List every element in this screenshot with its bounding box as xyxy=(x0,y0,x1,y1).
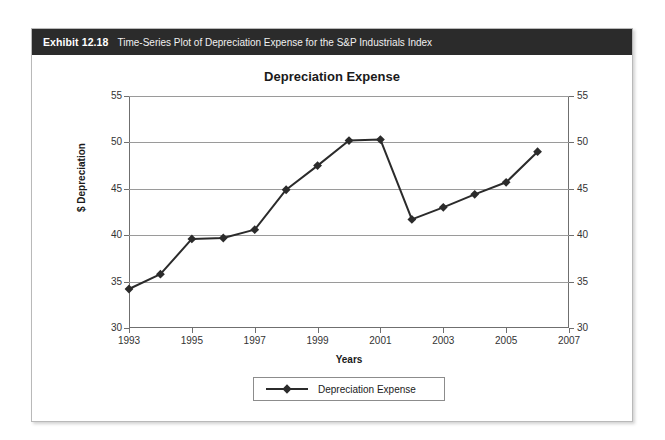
x-tick-mark xyxy=(192,328,193,333)
chart-title: Depreciation Expense xyxy=(32,69,632,84)
y-tick-label-left: 40 xyxy=(111,230,122,240)
x-tick-mark xyxy=(443,328,444,333)
y-tick-mark xyxy=(569,282,574,283)
x-tick-label: 1995 xyxy=(181,336,203,346)
y-tick-label-right: 50 xyxy=(577,137,588,147)
y-tick-mark xyxy=(569,189,574,190)
exhibit-card: Exhibit 12.18 Time-Series Plot of Deprec… xyxy=(31,28,633,422)
chart-area: Depreciation Expense $ Depreciation 3030… xyxy=(32,55,632,423)
y-tick-label-left: 50 xyxy=(111,137,122,147)
x-tick-label: 1997 xyxy=(244,336,266,346)
chart-legend: Depreciation Expense xyxy=(253,377,445,401)
plot-frame: 303035354040454550505555 199319951997199… xyxy=(129,96,569,328)
x-tick-label: 1993 xyxy=(118,336,140,346)
series-line xyxy=(129,140,538,289)
exhibit-caption: Time-Series Plot of Depreciation Expense… xyxy=(118,37,433,48)
y-tick-mark xyxy=(569,96,574,97)
y-tick-mark xyxy=(569,235,574,236)
x-tick-mark xyxy=(318,328,319,333)
series-depreciation-expense xyxy=(129,96,569,328)
x-tick-mark xyxy=(506,328,507,333)
x-axis-title: Years xyxy=(129,354,569,365)
y-axis-title: $ Depreciation xyxy=(76,143,87,212)
y-tick-label-right: 30 xyxy=(577,323,588,333)
x-tick-mark xyxy=(569,328,570,333)
x-tick-mark xyxy=(255,328,256,333)
y-tick-label-left: 45 xyxy=(111,184,122,194)
legend-label: Depreciation Expense xyxy=(318,384,416,395)
y-tick-label-right: 55 xyxy=(577,91,588,101)
x-tick-label: 1999 xyxy=(306,336,328,346)
y-tick-label-right: 40 xyxy=(577,230,588,240)
y-tick-label-left: 30 xyxy=(111,323,122,333)
data-point-marker xyxy=(407,215,416,224)
data-point-marker xyxy=(125,285,134,294)
y-tick-label-right: 35 xyxy=(577,277,588,287)
x-tick-mark xyxy=(380,328,381,333)
data-point-marker xyxy=(219,234,228,243)
exhibit-number: Exhibit 12.18 xyxy=(43,36,109,48)
x-tick-mark xyxy=(129,328,130,333)
y-tick-label-left: 55 xyxy=(111,91,122,101)
x-tick-label: 2003 xyxy=(432,336,454,346)
x-tick-label: 2005 xyxy=(495,336,517,346)
data-point-marker xyxy=(470,190,479,199)
y-tick-mark xyxy=(569,142,574,143)
legend-marker-icon xyxy=(264,382,310,396)
y-tick-label-left: 35 xyxy=(111,277,122,287)
y-tick-label-right: 45 xyxy=(577,184,588,194)
x-tick-label: 2001 xyxy=(369,336,391,346)
x-tick-label: 2007 xyxy=(558,336,580,346)
exhibit-header: Exhibit 12.18 Time-Series Plot of Deprec… xyxy=(32,29,632,55)
data-point-marker xyxy=(439,203,448,212)
data-point-marker xyxy=(376,135,385,144)
